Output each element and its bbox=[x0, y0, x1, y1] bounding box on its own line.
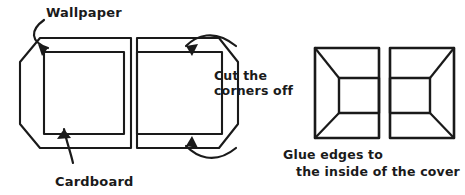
diagram-canvas: Wallpaper Cardboard Cut the corners off … bbox=[0, 0, 465, 195]
cardboard-rectangle-right bbox=[137, 52, 222, 134]
cover-fold-diagonal-top-left bbox=[315, 48, 339, 78]
cardboard-rectangle-left bbox=[44, 52, 124, 134]
finished-cover-left bbox=[315, 48, 379, 138]
cover-inner-panel-right bbox=[390, 78, 430, 113]
wallpaper-panel-left bbox=[20, 38, 131, 148]
cover-fold-diagonal-bottom-right bbox=[430, 113, 454, 138]
label-wallpaper: Wallpaper bbox=[46, 5, 122, 20]
wallpaper-sheet-outline-left bbox=[20, 38, 131, 148]
craft-instruction-diagram: Wallpaper Cardboard Cut the corners off … bbox=[0, 0, 465, 195]
cover-inner-panel-left bbox=[339, 78, 379, 113]
cover-fold-diagonal-bottom-left bbox=[315, 113, 339, 138]
label-glue-line1: Glue edges to bbox=[283, 147, 383, 162]
label-cardboard: Cardboard bbox=[55, 174, 134, 189]
finished-cover-right bbox=[390, 48, 454, 138]
cut-bottom-arrow-head bbox=[186, 136, 198, 148]
cut-top-arrow-head bbox=[186, 44, 198, 56]
label-cut-corners-line2: corners off bbox=[214, 83, 294, 98]
cut-top-arrow-curve bbox=[186, 35, 236, 46]
label-glue-line2: the inside of the cover bbox=[296, 164, 460, 179]
label-cut-corners-line1: Cut the bbox=[214, 68, 267, 83]
cover-fold-diagonal-top-right bbox=[430, 48, 454, 78]
